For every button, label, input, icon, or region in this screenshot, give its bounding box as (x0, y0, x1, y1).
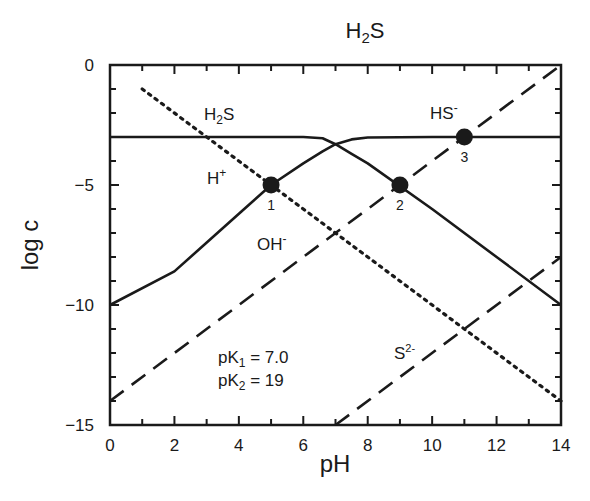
series-hs-ion (110, 137, 561, 305)
equilibrium-point-2 (391, 177, 408, 194)
chart-title: H2S (346, 18, 385, 46)
point-label-1: 1 (267, 197, 275, 213)
x-tick-label: 14 (552, 436, 571, 455)
point-label-2: 2 (396, 197, 404, 213)
label-oh-minus: OH- (257, 232, 287, 254)
label-hs-minus: HS- (430, 101, 458, 123)
x-tick-label: 2 (170, 436, 179, 455)
series-s2-ion (336, 257, 562, 425)
x-tick-label: 6 (299, 436, 308, 455)
y-tick-labels: 0−5−10−15 (65, 56, 94, 435)
y-tick-label: −10 (65, 296, 94, 315)
axis-ticks (110, 65, 561, 425)
y-tick-label: 0 (85, 56, 94, 75)
annotation-pk1: pK1 = 7.0 (218, 348, 289, 370)
y-axis-label: log c (16, 220, 43, 271)
label-h2s: H2S (204, 105, 234, 127)
x-axis-label: pH (320, 450, 351, 477)
h2s-log-concentration-chart: H2S 02468101214 0−5−10−15 pH log c 123 H… (0, 0, 590, 501)
point-label-3: 3 (460, 149, 468, 165)
y-tick-label: −15 (65, 416, 94, 435)
plot-frame (110, 65, 561, 425)
x-tick-label: 0 (105, 436, 114, 455)
equilibrium-point-3 (456, 129, 473, 146)
label-s2-minus: S2- (394, 342, 415, 363)
x-tick-label: 10 (423, 436, 442, 455)
equilibrium-point-1 (263, 177, 280, 194)
label-h-plus: H+ (207, 166, 226, 188)
y-tick-label: −5 (75, 176, 94, 195)
x-tick-label: 8 (363, 436, 372, 455)
series-group (110, 65, 561, 425)
x-tick-label: 4 (234, 436, 243, 455)
annotation-pk2: pK2 = 19 (218, 371, 284, 393)
x-tick-label: 12 (487, 436, 506, 455)
series-oh-ion (110, 65, 561, 401)
series-h2s (110, 137, 561, 305)
